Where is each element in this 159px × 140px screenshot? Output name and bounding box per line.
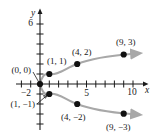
data-point-0-0 bbox=[37, 81, 43, 87]
point-label-4-neg2: (4, −2) bbox=[61, 112, 86, 122]
data-point-4-neg2 bbox=[74, 101, 80, 107]
y-axis bbox=[37, 14, 44, 130]
x-tick-label-5: 5 bbox=[84, 88, 89, 98]
point-label-9-neg3: (9, −3) bbox=[106, 122, 131, 132]
data-point-4-2 bbox=[74, 61, 80, 67]
point-label-4-2: (4, 2) bbox=[72, 47, 92, 57]
point-label-1-neg1: (1, −1) bbox=[10, 99, 35, 109]
graph-canvas: y x 6 −2 5 10 (0, 0) (1, 1) (4, 2) (9, 3… bbox=[0, 0, 159, 140]
x-tick-label-neg2: −2 bbox=[21, 88, 31, 98]
point-label-1-1: (1, 1) bbox=[47, 56, 67, 66]
x-axis bbox=[16, 81, 143, 88]
x-tick-label-10: 10 bbox=[127, 87, 137, 97]
point-label-0-0: (0, 0) bbox=[12, 65, 32, 75]
data-point-9-3 bbox=[121, 51, 127, 57]
data-point-1-1 bbox=[46, 71, 52, 77]
x-axis-label: x bbox=[144, 85, 150, 95]
data-point-9-neg3 bbox=[121, 111, 127, 117]
y-axis-label: y bbox=[30, 8, 36, 18]
parabola-graph-figure: y x 6 −2 5 10 (0, 0) (1, 1) (4, 2) (9, 3… bbox=[0, 0, 159, 140]
data-point-1-neg1 bbox=[46, 91, 52, 97]
callout-leader-point-1-neg1 bbox=[37, 95, 48, 104]
point-label-9-3: (9, 3) bbox=[116, 37, 136, 47]
y-tick-label-6: 6 bbox=[28, 18, 33, 28]
